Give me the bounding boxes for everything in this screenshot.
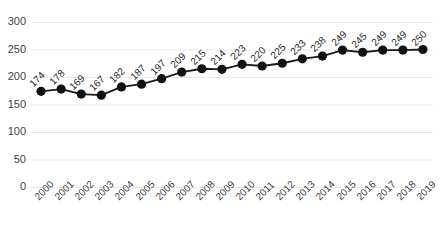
data-point-marker	[278, 59, 287, 68]
line-chart: 050100150200250300 200020012002200320042…	[0, 0, 440, 236]
data-point-marker	[117, 82, 126, 91]
data-point-marker	[398, 45, 407, 54]
data-point-marker	[57, 85, 66, 94]
data-point-marker	[358, 48, 367, 57]
data-point-marker	[97, 91, 106, 100]
y-axis-tick-label: 50	[14, 154, 26, 165]
data-point-marker	[318, 52, 327, 61]
data-point-marker	[177, 67, 186, 76]
data-point-marker	[137, 80, 146, 89]
data-point-marker	[36, 87, 45, 96]
y-axis-tick-label: 200	[8, 71, 26, 82]
data-point-marker	[378, 45, 387, 54]
data-point-marker	[197, 64, 206, 73]
data-point-marker	[418, 45, 427, 54]
data-point-marker	[338, 45, 347, 54]
y-axis-tick-label: 150	[8, 99, 26, 110]
data-point-marker	[258, 61, 267, 70]
y-axis-tick-label: 250	[8, 44, 26, 55]
data-point-marker	[217, 65, 226, 74]
data-point-marker	[157, 74, 166, 83]
gridlines	[31, 23, 433, 188]
y-axis-tick-label: 0	[20, 181, 26, 192]
data-point-marker	[237, 60, 246, 69]
y-axis-tick-label: 300	[8, 16, 26, 27]
data-point-marker	[298, 54, 307, 63]
y-axis-tick-label: 100	[8, 126, 26, 137]
data-point-marker	[77, 89, 86, 98]
